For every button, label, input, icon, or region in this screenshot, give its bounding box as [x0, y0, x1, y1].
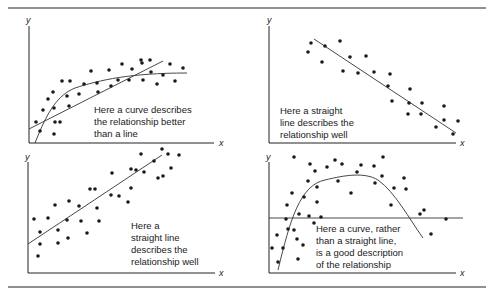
data-point — [402, 176, 406, 180]
data-point — [85, 231, 89, 235]
y-axis-label: y — [266, 15, 272, 25]
data-point — [181, 66, 185, 70]
y-axis-label: y — [25, 15, 31, 25]
data-point — [419, 112, 423, 116]
data-point — [95, 206, 99, 210]
annotation: Here a straightline describes therelatio… — [280, 105, 354, 140]
data-point — [41, 108, 45, 112]
data-point — [315, 200, 319, 204]
data-point — [349, 191, 353, 195]
data-point — [38, 242, 42, 246]
data-point — [149, 70, 153, 74]
data-point — [65, 218, 69, 222]
data-point — [117, 194, 121, 198]
panel-top-left: y x Here a curve describesthe relationsh… — [25, 15, 224, 148]
data-point — [404, 187, 408, 191]
data-point — [422, 208, 426, 212]
data-point — [355, 170, 359, 174]
data-point — [66, 236, 70, 240]
data-point — [82, 82, 86, 86]
data-point — [340, 162, 344, 166]
data-point — [88, 187, 92, 191]
data-point — [32, 217, 36, 221]
data-point — [341, 69, 345, 73]
data-point — [67, 104, 71, 108]
data-point — [270, 246, 274, 250]
data-point — [46, 216, 50, 220]
data-point — [134, 168, 138, 172]
data-point — [313, 169, 317, 173]
data-point — [68, 79, 72, 83]
data-point — [392, 186, 396, 190]
data-point — [333, 158, 337, 162]
data-point — [284, 217, 288, 221]
data-point — [420, 101, 424, 105]
annotation: Here astraight linedescribes therelation… — [131, 220, 199, 267]
data-point — [56, 241, 60, 245]
data-point — [286, 227, 290, 231]
data-point — [140, 61, 144, 65]
data-point — [89, 69, 93, 73]
data-point — [46, 97, 50, 101]
data-point — [381, 155, 385, 159]
y-axis-label: y — [24, 152, 30, 162]
data-point — [451, 132, 455, 136]
data-point — [292, 155, 296, 159]
data-point — [139, 152, 143, 156]
data-point — [276, 260, 280, 264]
data-point — [160, 147, 164, 151]
data-point — [56, 228, 60, 232]
data-point — [161, 174, 165, 178]
panel-bottom-left: y x Here astraight linedescribes therela… — [24, 147, 224, 278]
data-point — [390, 99, 394, 103]
data-point — [109, 84, 113, 88]
data-point — [372, 164, 376, 168]
data-point — [142, 170, 146, 174]
data-point — [281, 246, 285, 250]
data-point — [319, 215, 323, 219]
data-point — [325, 165, 329, 169]
data-point — [130, 67, 134, 71]
data-point — [129, 186, 133, 190]
data-point — [320, 60, 324, 64]
data-point — [65, 94, 69, 98]
data-point — [34, 120, 38, 124]
data-point — [309, 41, 313, 45]
data-point — [295, 237, 299, 241]
data-point — [306, 179, 310, 183]
data-point — [388, 72, 392, 76]
data-point — [173, 79, 177, 83]
data-point — [141, 78, 145, 82]
data-point — [38, 230, 42, 234]
data-point — [297, 212, 301, 216]
data-point — [77, 204, 81, 208]
data-point — [380, 174, 384, 178]
data-point — [58, 120, 62, 124]
data-point — [306, 50, 310, 54]
data-point — [169, 166, 173, 170]
data-point — [161, 73, 165, 77]
data-point — [52, 132, 56, 136]
data-point — [95, 81, 99, 85]
annotation: Here a curve, ratherthan a straight line… — [316, 223, 403, 270]
data-point — [126, 200, 130, 204]
data-point — [315, 185, 319, 189]
data-point — [302, 195, 306, 199]
data-point — [296, 257, 300, 261]
data-point — [292, 228, 296, 232]
data-point — [307, 214, 311, 218]
data-point — [434, 125, 438, 129]
data-point — [301, 243, 305, 247]
data-point — [406, 112, 410, 116]
y-axis-label: y — [265, 152, 271, 162]
data-point — [323, 44, 327, 48]
panel-bottom-right: y x Here a curve, ratherthan a straight … — [265, 152, 465, 278]
data-point — [429, 232, 433, 236]
data-point — [52, 106, 56, 110]
data-point — [51, 90, 55, 94]
data-point — [67, 199, 71, 203]
data-point — [338, 39, 342, 43]
data-point — [127, 78, 131, 82]
data-point — [110, 171, 114, 175]
data-point — [348, 55, 352, 59]
